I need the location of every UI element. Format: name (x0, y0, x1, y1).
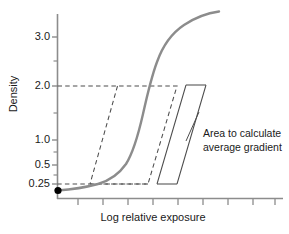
y-tick-label-0-5: 0.5 (12, 158, 50, 170)
dashed-region-outline (58, 86, 178, 184)
callout-text-line-1: Area to calculate (203, 127, 281, 139)
start-point-marker (54, 187, 61, 194)
x-axis-title: Log relative exposure (58, 211, 248, 223)
dashed-region-left-edge (90, 86, 118, 184)
y-axis-title: Density (7, 59, 19, 129)
solid-region-outline (157, 85, 206, 184)
callout-leader-line (186, 112, 199, 141)
callout-text-line-2: average gradient (203, 141, 282, 153)
y-tick-label-3-0: 3.0 (12, 30, 50, 42)
y-tick-label-0-25: 0.25 (6, 177, 50, 189)
chart-container: 3.0 2.0 1.0 0.5 0.25 Density Log relativ… (0, 0, 289, 234)
x-axis-ticks (78, 199, 275, 205)
characteristic-curve (58, 12, 220, 191)
y-tick-label-1-0: 1.0 (12, 133, 50, 145)
